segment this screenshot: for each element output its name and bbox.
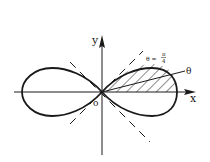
lemniscate-diagram: y x o θ θ = π 4 <box>0 0 210 162</box>
line-pi-over-4-label: θ = π 4 <box>146 51 166 64</box>
svg-text:π: π <box>162 51 166 57</box>
ray-theta-label: θ <box>186 66 191 76</box>
shaded-region <box>102 64 177 92</box>
svg-text:4: 4 <box>162 58 166 64</box>
svg-text:θ =: θ = <box>146 55 157 62</box>
y-axis-label: y <box>91 34 99 47</box>
x-axis-label: x <box>190 92 197 105</box>
origin-label: o <box>93 98 98 108</box>
